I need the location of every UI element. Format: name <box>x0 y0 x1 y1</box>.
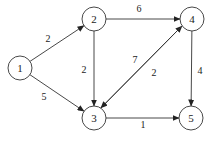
edge-labels: 25267241 <box>42 3 203 130</box>
graph-diagram: 25267241 12345 <box>0 0 205 145</box>
edge-weight-label: 2 <box>152 67 157 78</box>
graph-svg: 25267241 12345 <box>0 0 205 145</box>
edge-weight-label: 2 <box>82 64 87 75</box>
edge-4-to-5 <box>191 31 192 106</box>
edge-1-to-2 <box>30 26 84 62</box>
node-2: 2 <box>82 7 106 31</box>
node-4: 4 <box>180 7 204 31</box>
node-label: 1 <box>17 62 23 74</box>
nodes: 12345 <box>8 7 204 130</box>
node-1: 1 <box>8 56 32 80</box>
node-label: 2 <box>91 13 97 25</box>
edge-4-to-3 <box>101 26 182 108</box>
edge-weight-label: 7 <box>133 54 138 65</box>
edge-1-to-3 <box>30 75 84 112</box>
node-label: 3 <box>91 112 97 124</box>
node-label: 5 <box>188 112 194 124</box>
edge-weight-label: 4 <box>198 65 203 76</box>
edge-weight-label: 2 <box>46 33 51 44</box>
node-5: 5 <box>179 106 203 130</box>
edge-weight-label: 1 <box>141 119 146 130</box>
node-label: 4 <box>189 13 195 25</box>
node-3: 3 <box>82 106 106 130</box>
edges <box>30 19 192 118</box>
edge-weight-label: 6 <box>137 3 142 14</box>
edge-weight-label: 5 <box>42 91 47 102</box>
